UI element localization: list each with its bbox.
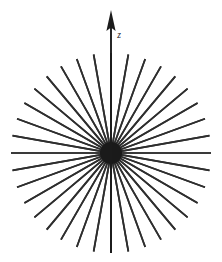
z-axis-label: z (116, 30, 121, 40)
figure-container: z (0, 0, 222, 262)
starburst-diagram: z (0, 0, 222, 262)
